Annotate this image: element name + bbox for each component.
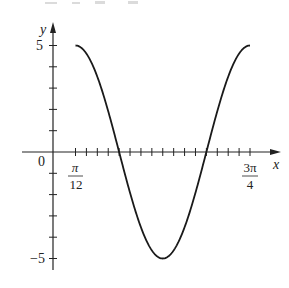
x-label-3pi-over-4: 3π 4 xyxy=(242,160,258,192)
y-max-label: 5 xyxy=(36,38,43,53)
svg-text:3π: 3π xyxy=(243,160,257,175)
svg-text:4: 4 xyxy=(247,177,254,192)
y-min-label: −5 xyxy=(30,251,45,266)
chart-canvas: y x 0 5 −5 π 12 3π 4 xyxy=(0,0,289,288)
x-axis xyxy=(22,148,281,156)
y-axis xyxy=(49,22,57,270)
x-axis-arrow-icon xyxy=(270,149,281,155)
svg-text:π: π xyxy=(72,160,79,175)
x-axis-label: x xyxy=(272,157,280,172)
origin-label: 0 xyxy=(38,154,45,169)
svg-text:12: 12 xyxy=(70,177,83,192)
x-label-pi-over-12: π 12 xyxy=(68,160,83,192)
cropped-header-text xyxy=(45,1,138,4)
y-axis-arrow-icon xyxy=(50,22,56,33)
y-axis-label: y xyxy=(38,22,47,37)
